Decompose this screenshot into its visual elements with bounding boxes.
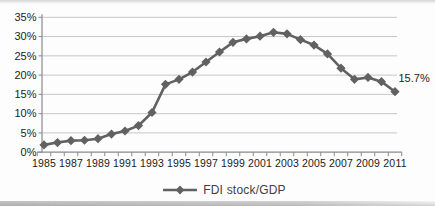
x-axis-tick-label: 2005	[302, 157, 326, 169]
data-point-marker	[363, 73, 372, 82]
x-axis-tick-label: 2007	[329, 157, 353, 169]
y-axis-tick-label: 35%	[14, 11, 36, 23]
legend-series-label: FDI stock/GDP	[203, 183, 286, 197]
x-axis-tick-label: 2003	[275, 157, 299, 169]
data-point-marker	[107, 129, 116, 138]
data-point-marker	[66, 136, 75, 145]
x-axis-tick-label: 2011	[383, 157, 406, 169]
y-axis-tick-label: 10%	[14, 107, 36, 119]
y-axis-tick-label: 30%	[14, 30, 36, 42]
y-axis-tick-label: 25%	[14, 50, 36, 62]
y-axis-tick-label: 5%	[21, 127, 37, 139]
x-axis-tick-label: 1993	[140, 157, 164, 169]
x-axis-tick-label: 2001	[248, 157, 272, 169]
x-axis-tick-label: 1999	[221, 157, 245, 169]
data-point-marker	[282, 29, 291, 38]
x-axis-tick-label: 1997	[194, 157, 218, 169]
data-point-marker	[161, 80, 170, 89]
y-axis-tick-label: 20%	[14, 69, 36, 81]
data-point-marker	[80, 136, 89, 145]
x-axis-tick-label: 1989	[86, 157, 110, 169]
data-point-marker	[269, 28, 278, 37]
end-value-label: 15.7%	[399, 72, 430, 84]
series-marker-icon	[163, 185, 197, 195]
data-point-marker	[53, 138, 62, 147]
data-point-marker	[242, 34, 251, 43]
y-axis-tick-label: 0%	[21, 146, 37, 158]
legend: FDI stock/GDP	[0, 183, 435, 197]
x-axis-tick-label: 1991	[113, 157, 137, 169]
fdi-chart-plot: 0%5%10%15%20%25%30%35%198519871989199119…	[0, 0, 435, 206]
y-axis-tick-label: 15%	[14, 88, 36, 100]
data-point-marker	[93, 134, 102, 143]
x-axis-tick-label: 1985	[32, 157, 56, 169]
chart-container: 0%5%10%15%20%25%30%35%198519871989199119…	[0, 0, 435, 206]
data-point-marker	[255, 32, 264, 41]
x-axis-tick-label: 2009	[356, 157, 380, 169]
data-point-marker	[39, 140, 48, 149]
data-point-marker	[120, 126, 129, 135]
x-axis-tick-label: 1995	[167, 157, 191, 169]
x-axis-tick-label: 1987	[59, 157, 83, 169]
